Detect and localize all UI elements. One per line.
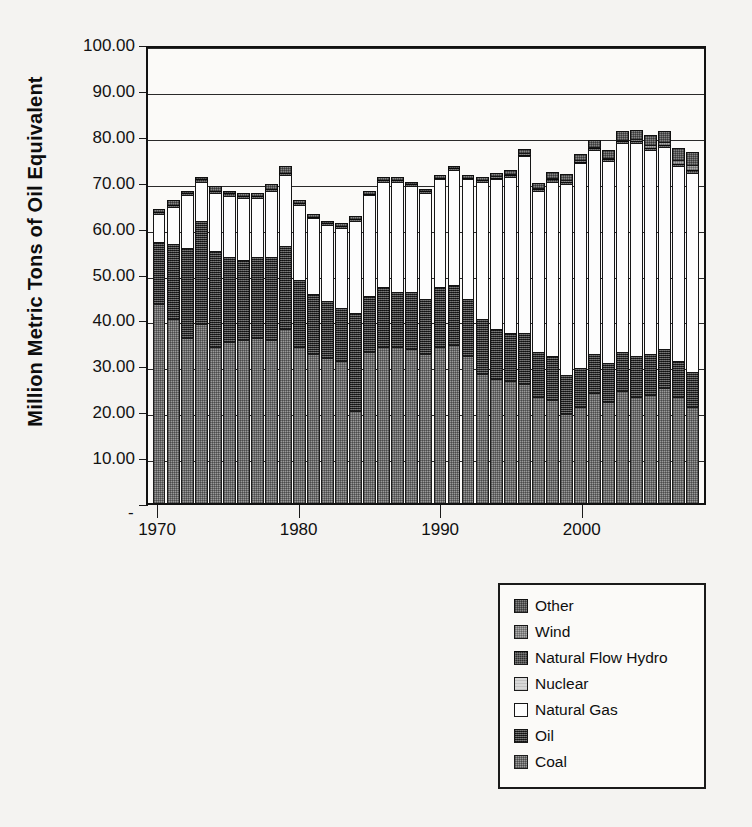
bar-segment-coal (616, 391, 629, 503)
bar-segment-coal (672, 397, 685, 503)
bar-segment-oil (405, 292, 418, 349)
legend-item-coal[interactable]: Coal (514, 749, 704, 775)
bar-segment-coal (560, 414, 573, 504)
bar-1994 (490, 173, 503, 503)
bar-segment-natural-gas (321, 225, 334, 301)
bar-segment-natural-gas (532, 191, 545, 352)
bar-segment-oil (363, 296, 376, 351)
legend-item-nuclear[interactable]: Nuclear (514, 671, 704, 697)
bar-segment-oil (462, 299, 475, 356)
bar-segment-natural-gas (405, 186, 418, 292)
bar-segment-oil (195, 221, 208, 324)
bar-segment-oil (335, 308, 348, 361)
bar-segment-oil (644, 354, 657, 395)
bar-1971 (167, 200, 180, 503)
bar-segment-natural-gas (574, 163, 587, 367)
bar-segment-natural-gas (686, 173, 699, 373)
coal-swatch (514, 755, 528, 769)
bar-segment-natural-gas (209, 193, 222, 250)
bar-segment-natural-gas (195, 182, 208, 221)
legend-item-oil[interactable]: Oil (514, 723, 704, 749)
bar-segment-coal (265, 340, 278, 503)
bar-segment-oil (616, 352, 629, 391)
bar-1988 (405, 182, 418, 503)
bar-segment-coal (644, 395, 657, 503)
bar-segment-natural-gas (518, 156, 531, 333)
bar-segment-other (279, 166, 292, 173)
bar-1991 (448, 166, 461, 503)
bar-2001 (588, 140, 601, 503)
bar-segment-coal (476, 374, 489, 503)
bar-1985 (363, 191, 376, 503)
bar-group (148, 48, 704, 503)
bar-segment-natural-gas (391, 182, 404, 292)
bar-segment-coal (335, 361, 348, 503)
bar-2003 (616, 131, 629, 503)
legend-item-label: Wind (535, 623, 570, 641)
bar-segment-coal (349, 411, 362, 503)
bar-segment-oil (588, 354, 601, 393)
bar-segment-oil (490, 329, 503, 379)
bar-segment-coal (279, 329, 292, 503)
bar-segment-oil (686, 372, 699, 406)
y-axis-tick-label: 70.00 (0, 174, 146, 194)
x-axis-tick-mark (440, 505, 441, 518)
bar-segment-oil (630, 356, 643, 397)
bar-1986 (377, 177, 390, 503)
legend-item-label: Oil (535, 727, 554, 745)
nuclear-swatch (514, 677, 528, 691)
bar-segment-other (602, 150, 615, 157)
bar-1981 (307, 214, 320, 503)
bar-segment-other (630, 130, 643, 139)
x-axis-tick-label: 1980 (280, 520, 318, 540)
bar-segment-natural-gas (279, 175, 292, 246)
legend-item-label: Natural Flow Hydro (535, 649, 668, 667)
bar-segment-coal (518, 384, 531, 503)
bar-1997 (532, 183, 545, 503)
bar-segment-coal (588, 393, 601, 503)
bar-segment-oil (448, 285, 461, 345)
oil-swatch (514, 729, 528, 743)
bar-segment-oil (181, 248, 194, 338)
bar-segment-natural-gas (490, 179, 503, 328)
bar-2004 (630, 130, 643, 503)
bar-1995 (504, 170, 517, 503)
bar-segment-oil (602, 363, 615, 402)
plot-area (146, 46, 706, 505)
bar-segment-oil (349, 313, 362, 412)
bar-1989 (419, 189, 432, 503)
legend-item-natural-gas[interactable]: Natural Gas (514, 697, 704, 723)
bar-segment-natural-gas (181, 195, 194, 248)
x-axis-tick-label: 1990 (421, 520, 459, 540)
legend-item-label: Other (535, 597, 574, 615)
bar-1999 (560, 174, 573, 503)
bar-1990 (434, 175, 447, 503)
bar-1974 (209, 186, 222, 503)
bar-segment-oil (419, 299, 432, 354)
bar-segment-oil (518, 333, 531, 383)
bar-segment-natural-gas (307, 218, 320, 294)
bar-segment-coal (546, 400, 559, 503)
legend-item-other[interactable]: Other (514, 593, 704, 619)
bar-segment-coal (462, 356, 475, 503)
legend-item-label: Nuclear (535, 675, 588, 693)
bar-segment-coal (490, 379, 503, 503)
bar-2000 (574, 154, 587, 503)
y-axis-tick-label: 20.00 (0, 403, 146, 423)
bar-1983 (335, 223, 348, 503)
bar-1992 (462, 175, 475, 503)
bar-segment-natural-gas (167, 207, 180, 244)
bar-1977 (251, 193, 264, 503)
bar-segment-natural-gas (335, 228, 348, 308)
bar-1978 (265, 184, 278, 503)
bar-segment-coal (237, 340, 250, 503)
y-axis-tick-label: 80.00 (0, 128, 146, 148)
legend-item-natural-flow-hydro[interactable]: Natural Flow Hydro (514, 645, 704, 671)
bar-segment-oil (574, 368, 587, 407)
bar-segment-natural-gas (265, 191, 278, 258)
bar-segment-oil (167, 244, 180, 320)
bar-segment-oil (307, 294, 320, 354)
legend-item-label: Natural Gas (535, 701, 618, 719)
legend-item-wind[interactable]: Wind (514, 619, 704, 645)
bar-1973 (195, 177, 208, 503)
